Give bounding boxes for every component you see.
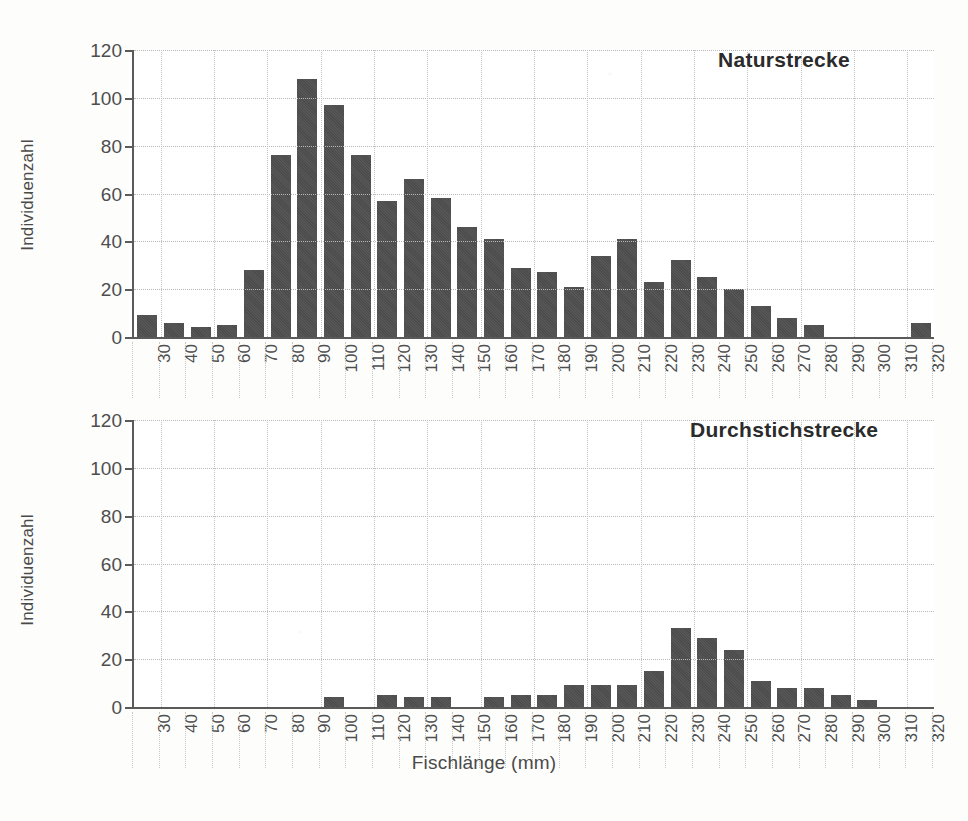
x-tick-divider <box>185 342 186 398</box>
gridline-vertical <box>854 420 855 707</box>
bar <box>537 695 557 707</box>
gridline-vertical <box>907 420 908 707</box>
bar <box>617 239 637 337</box>
gridline-vertical <box>641 50 642 337</box>
x-tick-divider <box>905 342 906 398</box>
bar <box>671 260 691 337</box>
bar <box>564 287 584 337</box>
bar <box>324 105 344 337</box>
x-tick-divider <box>612 342 613 398</box>
x-tick-label: 260 <box>768 342 790 402</box>
chart-panel-durchstichstrecke: Individuenzahl 020406080100120 Durchstic… <box>0 398 968 798</box>
x-tick-divider <box>452 342 453 398</box>
bar <box>271 155 291 337</box>
y-tick-label: 20 <box>101 280 122 299</box>
gridline-vertical <box>534 50 535 337</box>
bar <box>484 697 504 707</box>
x-tick-label: 160 <box>501 342 523 402</box>
gridline-vertical <box>267 420 268 707</box>
x-tick-label: 180 <box>554 342 576 402</box>
gridline-vertical <box>694 50 695 337</box>
y-tick-label: 120 <box>90 41 122 60</box>
plot-wrapper: 020406080100120 Durchstichstrecke 304050… <box>0 398 968 798</box>
x-tick-divider <box>772 342 773 398</box>
chart-panel-naturstrecke: Individuenzahl 020406080100120 Naturstre… <box>0 0 968 400</box>
y-tick-mark <box>125 289 134 291</box>
x-axis-tick-labels: 3040506070809010011012013014015016017018… <box>132 342 932 402</box>
gridline-vertical <box>534 420 535 707</box>
x-tick-label: 210 <box>634 342 656 402</box>
y-tick-mark <box>125 468 134 470</box>
x-tick-label: 40 <box>181 342 203 402</box>
x-tick-label: 110 <box>368 342 390 402</box>
x-tick-divider <box>559 342 560 398</box>
y-tick-label: 60 <box>101 184 122 203</box>
gridline-vertical <box>374 420 375 707</box>
x-tick-label: 90 <box>314 342 336 402</box>
x-tick-label: 50 <box>208 342 230 402</box>
y-tick-mark <box>125 611 134 613</box>
gridline-vertical <box>587 50 588 337</box>
bar <box>351 155 371 337</box>
gridline-vertical <box>374 50 375 337</box>
y-tick-mark <box>125 98 134 100</box>
y-tick-label: 100 <box>90 88 122 107</box>
x-tick-divider <box>319 342 320 398</box>
x-tick-label: 60 <box>234 342 256 402</box>
x-tick-label: 280 <box>821 342 843 402</box>
y-tick-mark <box>125 241 134 243</box>
gridline-vertical <box>427 50 428 337</box>
gridline-vertical <box>694 420 695 707</box>
gridline-vertical <box>854 50 855 337</box>
x-tick-label: 130 <box>421 342 443 402</box>
x-axis-title: Fischlänge (mm) <box>0 752 968 774</box>
x-tick-label: 250 <box>741 342 763 402</box>
bar <box>777 688 797 707</box>
x-tick-label: 270 <box>794 342 816 402</box>
y-tick-label: 20 <box>101 650 122 669</box>
figure-page: Individuenzahl 020406080100120 Naturstre… <box>0 0 968 821</box>
gridline-vertical <box>907 50 908 337</box>
y-tick-label: 120 <box>90 411 122 430</box>
x-tick-divider <box>639 342 640 398</box>
bar <box>511 695 531 707</box>
x-tick-divider <box>879 342 880 398</box>
y-tick-label: 80 <box>101 506 122 525</box>
bar <box>591 685 611 707</box>
gridline-vertical <box>321 50 322 337</box>
y-tick-label: 100 <box>90 458 122 477</box>
bar <box>911 323 931 337</box>
bar <box>751 306 771 337</box>
bar <box>644 282 664 337</box>
gridline-vertical <box>214 420 215 707</box>
y-tick-mark <box>125 50 134 52</box>
y-tick-mark <box>125 707 134 709</box>
bar <box>724 289 744 337</box>
x-tick-label: 70 <box>261 342 283 402</box>
bar <box>137 315 157 337</box>
bar <box>644 671 664 707</box>
chart-title: Naturstrecke <box>718 48 850 72</box>
x-tick-divider <box>345 342 346 398</box>
bar <box>751 681 771 707</box>
bar <box>404 697 424 707</box>
bar <box>191 327 211 337</box>
gridline-vertical <box>161 420 162 707</box>
x-tick-label: 120 <box>394 342 416 402</box>
x-tick-label: 140 <box>448 342 470 402</box>
y-tick-label: 60 <box>101 554 122 573</box>
bar <box>777 318 797 337</box>
x-tick-divider <box>825 342 826 398</box>
bar <box>217 325 237 337</box>
bar <box>457 227 477 337</box>
x-tick-label: 320 <box>928 342 950 402</box>
x-tick-divider <box>399 342 400 398</box>
y-axis-tick-labels: 020406080100120 <box>76 50 122 337</box>
x-tick-divider <box>799 342 800 398</box>
x-tick-label: 310 <box>901 342 923 402</box>
y-tick-label: 80 <box>101 136 122 155</box>
x-tick-divider <box>852 342 853 398</box>
gridline-vertical <box>587 420 588 707</box>
y-tick-mark <box>125 420 134 422</box>
x-tick-divider <box>745 342 746 398</box>
